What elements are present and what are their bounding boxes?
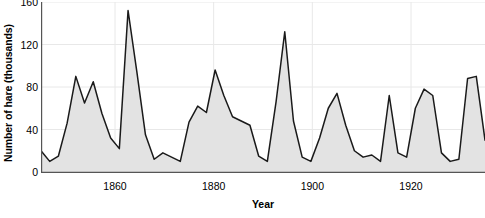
x-tick-1920: 1920 [399,180,422,192]
y-axis-tick-labels: 04080120160 [14,0,38,185]
x-tick-1900: 1900 [301,180,324,192]
area-fill [41,11,485,173]
y-axis-title-text: Number of hare (thousands) [2,24,14,162]
plot-area [41,2,485,177]
y-tick-80: 80 [26,81,38,93]
hare-population-chart: Number of hare (thousands) 04080120160 1… [0,0,485,218]
y-tick-40: 40 [26,124,38,136]
y-tick-0: 0 [32,166,38,178]
x-axis-title: Year [41,198,485,210]
area-chart-svg [41,2,485,177]
y-tick-120: 120 [20,39,38,51]
y-tick-160: 160 [20,0,38,8]
x-tick-1860: 1860 [103,180,126,192]
x-tick-1880: 1880 [202,180,225,192]
x-axis-tick-labels: 1860188019001920 [41,180,485,194]
